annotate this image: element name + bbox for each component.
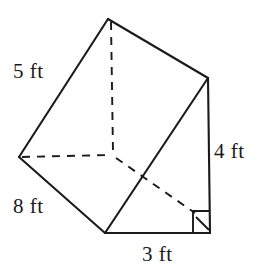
hidden-edge-diagonal	[116, 158, 195, 213]
dimension-label-slant-left: 5 ft	[13, 61, 44, 82]
prism-drawing	[0, 0, 272, 276]
visible-edges-group	[19, 19, 210, 233]
edge-apex-left	[19, 19, 108, 157]
dimension-label-height-right: 4 ft	[214, 141, 245, 162]
dimension-label-length-bottom-left: 8 ft	[13, 196, 44, 217]
prism-figure: 5 ft 8 ft 4 ft 3 ft	[0, 0, 272, 276]
edge-topright-bottomfront	[105, 78, 208, 233]
hidden-edges-group	[22, 22, 195, 213]
edge-topright-bottomright	[208, 78, 210, 233]
edge-apex-topright	[108, 19, 208, 78]
hidden-edge-vertical	[111, 22, 113, 152]
right-angle-marker	[193, 211, 210, 233]
dimension-label-base-bottom: 3 ft	[142, 244, 173, 265]
hidden-edge-horizontal	[22, 155, 110, 157]
right-angle-tick	[196, 217, 209, 230]
